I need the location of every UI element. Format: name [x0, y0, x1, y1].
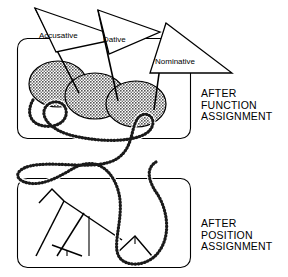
figure-root: .boxline { fill: none; stroke: #000000; … [0, 0, 288, 277]
tree-spine-right [64, 201, 122, 240]
panel-function-assignment: Accusative Dative Nominative [18, 8, 233, 139]
flag-banner-dative [98, 10, 160, 54]
flag-label-nominative: Nominative [155, 57, 196, 66]
flag-label-dative: Dative [103, 35, 126, 44]
tree-root-hook [39, 189, 64, 203]
caption-after-function-assignment: AFTER FUNCTION ASSIGNMENT [201, 88, 272, 123]
tree-branch-parallel [57, 213, 84, 256]
caption-after-position-assignment: AFTER POSITION ASSIGNMENT [201, 218, 272, 253]
flag-label-accusative: Accusative [39, 31, 78, 40]
syntax-tree [36, 189, 152, 256]
